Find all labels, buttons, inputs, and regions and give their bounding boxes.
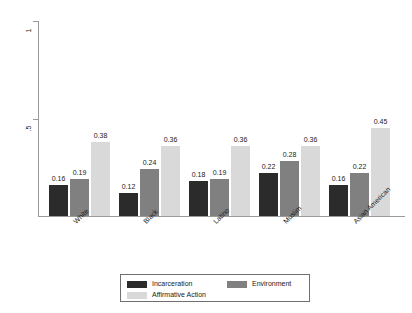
- y-axis-tick-label: 1: [25, 21, 32, 41]
- bar-chart: Percent of Respondents 1.5 0.160.190.380…: [0, 0, 412, 313]
- bar-slot: 0.16: [49, 185, 68, 216]
- bar-group: 0.160.220.45: [329, 21, 391, 216]
- bar-slot: 0.38: [91, 142, 110, 216]
- bar-value-label: 0.22: [353, 163, 367, 171]
- bar-group: 0.180.190.36: [189, 21, 251, 216]
- legend-item[interactable]: Affirmative Action: [127, 290, 206, 300]
- bar[interactable]: [119, 193, 138, 216]
- bar-slot: 0.12: [119, 193, 138, 216]
- legend-swatch: [127, 281, 147, 288]
- bar-value-label: 0.38: [94, 132, 108, 140]
- bar-value-label: 0.22: [262, 163, 276, 171]
- bar-value-label: 0.36: [164, 136, 178, 144]
- bar-value-label: 0.28: [283, 151, 297, 159]
- bar-value-label: 0.45: [374, 118, 388, 126]
- bar[interactable]: [189, 181, 208, 216]
- bar-value-label: 0.19: [73, 169, 87, 177]
- legend-label: Affirmative Action: [152, 291, 206, 299]
- bar-group: 0.160.190.38: [49, 21, 111, 216]
- bar-value-label: 0.36: [234, 136, 248, 144]
- bar[interactable]: [161, 146, 180, 216]
- legend-swatch: [227, 281, 247, 288]
- bar[interactable]: [231, 146, 250, 216]
- y-axis-tick: [33, 21, 38, 22]
- bar[interactable]: [91, 142, 110, 216]
- bar-slot: 0.18: [189, 181, 208, 216]
- bar[interactable]: [49, 185, 68, 216]
- y-axis-tick-label: .5: [25, 118, 32, 138]
- bar[interactable]: [259, 173, 278, 216]
- bar-value-label: 0.19: [213, 169, 227, 177]
- y-axis-tick: [33, 119, 38, 120]
- plot-area: 0.160.190.380.120.240.360.180.190.360.22…: [39, 21, 405, 216]
- bar-group: 0.220.280.36: [259, 21, 321, 216]
- chart-legend: IncarcerationEnvironmentAffirmative Acti…: [120, 274, 310, 302]
- bar-value-label: 0.24: [143, 159, 157, 167]
- bar-value-label: 0.36: [304, 136, 318, 144]
- bar-value-label: 0.16: [332, 175, 346, 183]
- bar-slot: 0.22: [259, 173, 278, 216]
- bar-group: 0.120.240.36: [119, 21, 181, 216]
- bar-slot: 0.36: [231, 146, 250, 216]
- bar-value-label: 0.12: [122, 183, 136, 191]
- legend-swatch: [127, 292, 147, 299]
- bar[interactable]: [329, 185, 348, 216]
- legend-item[interactable]: Environment: [227, 279, 291, 289]
- bar-slot: 0.16: [329, 185, 348, 216]
- bar-value-label: 0.18: [192, 171, 206, 179]
- bar-slot: 0.36: [161, 146, 180, 216]
- legend-item[interactable]: Incarceration: [127, 279, 192, 289]
- bar[interactable]: [301, 146, 320, 216]
- bar-slot: 0.36: [301, 146, 320, 216]
- legend-label: Environment: [252, 280, 291, 288]
- legend-label: Incarceration: [152, 280, 192, 288]
- bar-value-label: 0.16: [52, 175, 66, 183]
